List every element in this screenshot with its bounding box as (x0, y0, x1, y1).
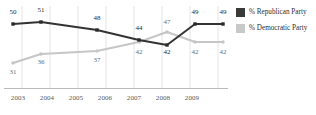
data-label-republican: 50 (6, 8, 20, 16)
plot-area: 50 51 48 44 42 49 49 31 36 37 42 47 42 4… (0, 0, 232, 95)
data-label-republican: 49 (216, 8, 230, 16)
x-tick-2007: 2007 (121, 94, 147, 102)
data-label-republican: 49 (188, 8, 202, 16)
data-label-democratic: 31 (6, 68, 20, 76)
x-axis-labels: 2003 2004 2005 2006 2007 2008 2009 (0, 94, 232, 108)
legend-item-republican: % Republican Party (236, 8, 316, 17)
line-chart: 50 51 48 44 42 49 49 31 36 37 42 47 42 4… (0, 0, 316, 115)
x-tick-2009: 2009 (179, 94, 205, 102)
x-tick-2005: 2005 (63, 94, 89, 102)
data-label-democratic: 42 (188, 48, 202, 56)
legend-swatch-icon (236, 24, 245, 33)
x-tick-2004: 2004 (34, 94, 60, 102)
data-label-democratic: 37 (90, 56, 104, 64)
data-label-democratic: 36 (34, 58, 48, 66)
legend-swatch-icon (236, 8, 245, 17)
chart-legend: % Republican Party % Democratic Party (236, 8, 316, 40)
data-label-republican: 42 (160, 48, 174, 56)
data-label-democratic: 42 (216, 48, 230, 56)
series-republican-markers (11, 20, 224, 46)
data-label-republican: 48 (90, 14, 104, 22)
legend-label-republican: % Republican Party (249, 8, 307, 17)
x-tick-2003: 2003 (5, 94, 31, 102)
series-republican (11, 20, 224, 46)
data-label-democratic: 47 (160, 18, 174, 26)
x-tick-2006: 2006 (92, 94, 118, 102)
legend-label-democratic: % Democratic Party (249, 24, 307, 33)
x-tick-2008: 2008 (150, 94, 176, 102)
legend-item-democratic: % Democratic Party (236, 24, 316, 33)
data-label-democratic: 42 (132, 48, 146, 56)
data-label-republican: 44 (132, 24, 146, 32)
data-label-republican: 51 (34, 6, 48, 14)
